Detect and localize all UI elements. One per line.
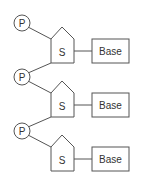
phosphate-label: P xyxy=(19,18,26,29)
phosphate-label: P xyxy=(19,72,26,83)
nucleotide-unit-2: P S Base xyxy=(14,69,129,127)
base-label: Base xyxy=(99,100,122,111)
sugar-label: S xyxy=(59,155,66,166)
nucleotide-unit-3: P S Base xyxy=(14,123,129,171)
backbone-bond xyxy=(28,63,51,73)
phosphate-sugar-bond xyxy=(28,135,51,147)
nucleotide-unit-1: P S Base xyxy=(14,15,129,73)
sugar-label: S xyxy=(59,47,66,58)
nucleotide-chain-diagram: P S Base P S Base P S Base xyxy=(0,0,145,181)
phosphate-sugar-bond xyxy=(28,81,51,93)
backbone-bond xyxy=(28,117,51,127)
base-label: Base xyxy=(99,154,122,165)
phosphate-label: P xyxy=(19,126,26,137)
sugar-label: S xyxy=(59,101,66,112)
phosphate-sugar-bond xyxy=(28,27,51,39)
base-label: Base xyxy=(99,46,122,57)
